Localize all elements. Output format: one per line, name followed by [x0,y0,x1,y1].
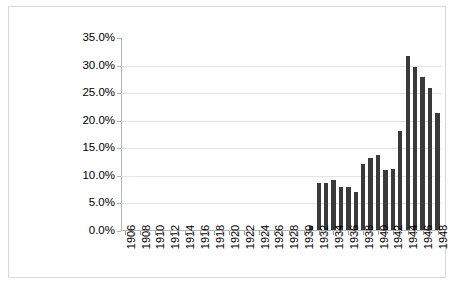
x-axis-tick-label: 1928 [289,225,300,249]
bar-slot [137,38,144,230]
bar [346,187,350,230]
x-axis-tick-slot: 1928 [286,231,293,235]
bar-slot [374,38,381,230]
bar-slot [419,38,426,230]
x-axis-tick-label: 1924 [260,225,271,249]
bar-slot [241,38,248,230]
x-axis-tick-slot: 1914 [182,231,189,235]
x-axis-tick-label: 1912 [170,225,181,249]
x-axis-tick-label: 1922 [245,225,256,249]
bar-slot [226,38,233,230]
x-axis-tick-slot: 1930 [301,231,308,235]
bar-slot [181,38,188,230]
y-axis-tick-mark [117,231,121,232]
bar [339,187,343,230]
x-axis-tick-slot: 1948 [434,231,441,235]
x-axis-tick-label: 1910 [155,225,166,249]
y-axis-tick-label: 25.0% [82,87,115,99]
bar [361,164,365,230]
x-axis-tick-slot: 1916 [196,231,203,235]
x-axis-tick-label: 1934 [334,225,345,249]
bar-slot [382,38,389,230]
bar-slot [397,38,404,230]
y-axis-tick-mark [117,121,121,122]
x-axis-tick-slot [412,231,419,235]
x-axis-tick-label: 1908 [141,225,152,249]
x-axis-tick-mark [356,231,357,235]
x-axis-tick-slot [174,231,181,235]
x-axis-tick-label: 1920 [230,225,241,249]
bar [324,183,328,230]
x-axis-tick-slot: 1944 [405,231,412,235]
bar [383,170,387,230]
x-axis-tick-slot [159,231,166,235]
x-axis-tick-mark [267,231,268,235]
bar-slot [345,38,352,230]
x-axis-tick-mark [296,231,297,235]
x-axis-tick-mark [133,231,134,235]
bar-slot [196,38,203,230]
x-axis-tick-mark [311,231,312,235]
x-axis-tick-label: 1942 [393,225,404,249]
bar [428,88,432,230]
x-axis-tick-slot [204,231,211,235]
x-axis-tick-labels: 1906190819101912191419161918192019221924… [122,231,442,235]
y-axis-tick-label: 0.0% [89,225,115,237]
bar [317,183,321,230]
x-axis-tick-slot: 1906 [122,231,129,235]
x-axis-tick-slot [263,231,270,235]
x-axis-tick-mark [281,231,282,235]
x-axis-tick-slot: 1910 [152,231,159,235]
x-axis-tick-mark [252,231,253,235]
bar-slot [330,38,337,230]
x-axis-tick-slot: 1912 [167,231,174,235]
bar-slot [315,38,322,230]
bar-slot [248,38,255,230]
x-axis-tick-slot [382,231,389,235]
bar-slot [337,38,344,230]
bar-slot [144,38,151,230]
bar-slot [367,38,374,230]
bar-slot [256,38,263,230]
y-axis-tick-mark [117,38,121,39]
x-axis-tick-slot: 1932 [315,231,322,235]
x-axis-tick-slot [234,231,241,235]
x-axis-tick-label: 1930 [304,225,315,249]
bar-slot [167,38,174,230]
y-axis-tick-mark [117,148,121,149]
bar-slot [204,38,211,230]
x-axis-tick-mark [162,231,163,235]
x-axis-tick-mark [207,231,208,235]
x-axis-tick-slot: 1908 [137,231,144,235]
x-axis-tick-slot [248,231,255,235]
y-axis-tick-label: 10.0% [82,170,115,182]
bar-slot [360,38,367,230]
x-axis-tick-mark [430,231,431,235]
x-axis-tick-slot: 1942 [390,231,397,235]
bar-series [122,38,441,230]
x-axis-tick-label: 1918 [215,225,226,249]
bar-slot [293,38,300,230]
bar-slot [174,38,181,230]
x-axis-tick-slot [293,231,300,235]
y-axis-tick-mark [117,176,121,177]
x-axis-tick-label: 1914 [185,225,196,249]
x-axis-tick-mark [148,231,149,235]
bar-slot [300,38,307,230]
x-axis-tick-slot: 1920 [226,231,233,235]
bar-slot [322,38,329,230]
bar-slot [389,38,396,230]
x-axis-tick-mark [400,231,401,235]
bar [376,155,380,230]
x-axis-tick-label: 1944 [408,225,419,249]
y-axis-tick-mark [117,66,121,67]
x-axis-tick-mark [237,231,238,235]
x-axis-tick-slot [353,231,360,235]
x-axis-tick-slot [278,231,285,235]
bar-slot [159,38,166,230]
x-axis-tick-slot: 1922 [241,231,248,235]
x-axis-tick-label: 1906 [126,225,137,249]
y-axis-tick-mark [117,203,121,204]
bar-slot [270,38,277,230]
bar [398,131,402,230]
